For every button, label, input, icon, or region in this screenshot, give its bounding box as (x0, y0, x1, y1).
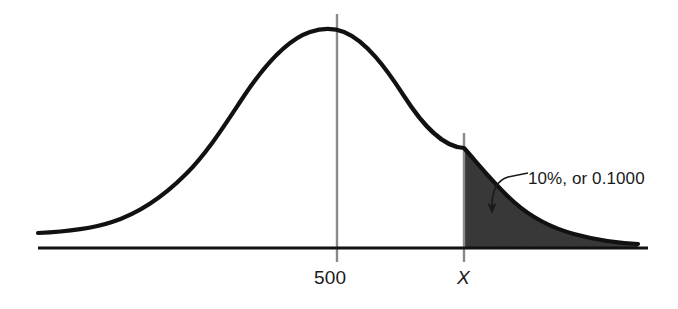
shaded-tail-region (464, 148, 638, 247)
normal-distribution-figure: 500 X 10%, or 0.1000 (0, 0, 678, 309)
distribution-plot (0, 0, 678, 309)
axis-tick-label-mean: 500 (314, 268, 346, 287)
axis-tick-label-threshold: X (457, 268, 470, 287)
tail-area-annotation-label: 10%, or 0.1000 (528, 170, 645, 187)
